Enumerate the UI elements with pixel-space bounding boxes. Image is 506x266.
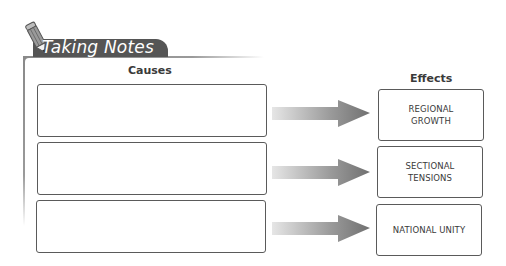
effect-box-1: REGIONAL GROWTH	[378, 89, 484, 141]
effect-box-2: SECTIONAL TENSIONS	[377, 146, 483, 198]
frame-left-border	[23, 56, 25, 226]
arrow-right-icon	[272, 214, 372, 244]
effects-header: Effects	[410, 72, 452, 85]
causes-header: Causes	[128, 64, 172, 77]
arrow-right-icon	[272, 99, 372, 129]
frame-corner	[23, 56, 33, 66]
cause-box-1[interactable]	[37, 84, 267, 137]
effect-box-3: NATIONAL UNITY	[376, 204, 482, 256]
section-title: Taking Notes	[42, 37, 154, 57]
arrow-right-icon	[272, 158, 372, 188]
cause-box-2[interactable]	[37, 142, 267, 195]
cause-box-3[interactable]	[36, 200, 266, 253]
